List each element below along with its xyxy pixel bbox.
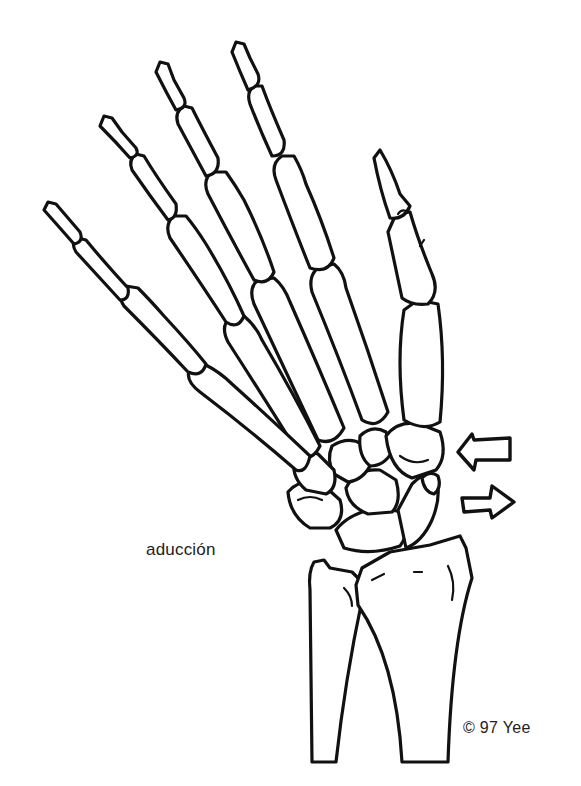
thumb-bones <box>374 150 443 427</box>
arrow-right-icon <box>462 486 514 518</box>
figure-canvas: aducción © 97 Yee <box>0 0 581 786</box>
forearm-bones <box>310 536 473 762</box>
hand-skeleton-illustration <box>0 0 581 786</box>
arrow-left-icon <box>458 434 510 470</box>
copyright-label: © 97 Yee <box>463 719 531 737</box>
movement-label: aducción <box>146 540 216 560</box>
